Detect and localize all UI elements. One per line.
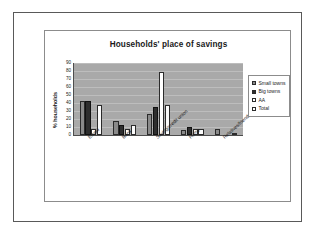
y-tick-label: 50 xyxy=(55,93,71,98)
legend-item[interactable]: AA xyxy=(252,96,287,104)
bar xyxy=(80,101,85,135)
chart-title: Households' place of savings xyxy=(45,40,292,49)
bar-group xyxy=(74,63,108,135)
legend-item-label: Small towns xyxy=(259,81,286,86)
y-tick-label: 10 xyxy=(55,125,71,130)
legend-item[interactable]: Total xyxy=(252,105,287,113)
legend-swatch-icon xyxy=(252,107,256,111)
legend-item[interactable]: Big towns xyxy=(252,88,287,96)
y-tick-label: 20 xyxy=(55,117,71,122)
legend-item-label: Total xyxy=(259,106,270,111)
bar-group xyxy=(108,63,142,135)
bar xyxy=(85,101,90,135)
y-axis-tick-labels: 9080706050403020100 xyxy=(55,63,71,135)
x-axis-tick-labels: EsusuBankSaving/credit unionHomeRelative… xyxy=(73,136,263,196)
bar xyxy=(232,133,237,135)
plot-area xyxy=(73,63,243,136)
chart-legend[interactable]: Small townsBig townsAATotal xyxy=(248,75,290,117)
legend-item[interactable]: Small towns xyxy=(252,79,287,87)
y-tick-label: 80 xyxy=(55,69,71,74)
y-tick-label: 60 xyxy=(55,85,71,90)
bar xyxy=(113,121,118,135)
y-tick-label: 90 xyxy=(55,61,71,66)
bar xyxy=(153,107,158,135)
y-tick-label: 0 xyxy=(55,133,71,138)
bar-group xyxy=(175,63,209,135)
bar xyxy=(131,125,136,135)
legend-item-label: Big towns xyxy=(259,89,281,94)
bar xyxy=(147,114,152,135)
bar xyxy=(159,72,164,135)
legend-swatch-icon xyxy=(252,90,256,94)
y-tick-label: 40 xyxy=(55,101,71,106)
bar xyxy=(181,130,186,135)
bars-layer xyxy=(74,63,243,135)
bar xyxy=(215,129,220,135)
legend-swatch-icon xyxy=(252,81,256,85)
legend-item-label: AA xyxy=(259,98,266,103)
y-tick-label: 70 xyxy=(55,77,71,82)
legend-swatch-icon xyxy=(252,98,256,102)
y-tick-label: 30 xyxy=(55,109,71,114)
slide-frame: Households' place of savings % household… xyxy=(13,12,302,222)
chart-object-frame[interactable]: Households' place of savings % household… xyxy=(44,30,291,202)
